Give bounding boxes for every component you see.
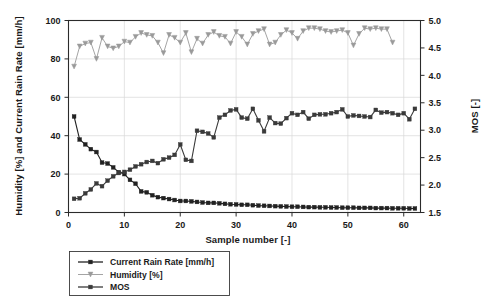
left-tick-label: 80 [50, 54, 60, 64]
data-point-marker [106, 162, 110, 166]
data-point-marker [145, 160, 149, 164]
data-point-marker [402, 111, 406, 115]
data-point-marker [363, 206, 367, 210]
data-point-marker [413, 107, 417, 111]
data-point-marker [396, 206, 400, 210]
data-point-marker [335, 110, 339, 114]
data-point-marker [134, 165, 138, 169]
data-point-marker [251, 107, 255, 111]
bottom-tick-label: 20 [175, 220, 185, 230]
legend-label-2: Humidity [%] [110, 270, 163, 280]
data-point-marker [156, 195, 160, 199]
data-point-marker [229, 202, 233, 206]
data-point-marker [357, 206, 361, 210]
data-point-marker [285, 205, 289, 209]
data-point-marker [279, 204, 283, 208]
data-point-marker [167, 156, 171, 160]
right-tick-label: 3.0 [429, 125, 442, 135]
data-point-marker [89, 260, 93, 264]
data-point-marker [324, 112, 328, 116]
data-point-marker [234, 203, 238, 207]
data-point-marker [324, 205, 328, 209]
bottom-tick-label: 50 [343, 220, 353, 230]
data-point-marker [78, 138, 82, 142]
data-point-marker [391, 111, 395, 115]
data-point-marker [273, 121, 277, 125]
data-point-marker [72, 115, 76, 119]
bottom-tick-label: 10 [119, 220, 129, 230]
data-point-marker [296, 205, 300, 209]
data-point-marker [139, 189, 143, 193]
data-point-marker [312, 205, 316, 209]
data-point-marker [245, 117, 249, 121]
data-point-marker [190, 159, 194, 163]
data-point-marker [335, 206, 339, 210]
data-point-marker [111, 174, 115, 178]
data-point-marker [173, 153, 177, 157]
chart-legend: Current Rain Rate [mm/h]Humidity [%]MOS [70, 252, 230, 296]
right-tick-label: 4.0 [429, 71, 442, 81]
left-tick-label: 0 [55, 208, 60, 218]
data-point-marker [257, 204, 261, 208]
data-point-marker [89, 147, 93, 151]
data-point-marker [212, 201, 216, 205]
data-point-marker [301, 110, 305, 114]
data-point-marker [407, 207, 411, 211]
data-point-marker [150, 159, 154, 163]
right-tick-label: 2.5 [429, 153, 442, 163]
data-point-marker [195, 200, 199, 204]
data-point-marker [212, 135, 216, 139]
data-point-marker [83, 142, 87, 146]
data-point-marker [195, 129, 199, 133]
data-point-marker [134, 182, 138, 186]
data-point-marker [100, 184, 104, 188]
data-point-marker [340, 206, 344, 210]
bottom-axis-title: Sample number [-] [205, 234, 290, 245]
data-point-marker [257, 118, 261, 122]
right-tick-label: 2.0 [429, 180, 442, 190]
data-point-marker [223, 113, 227, 117]
data-point-marker [363, 115, 367, 119]
data-point-marker [329, 206, 333, 210]
bottom-tick-label: 0 [66, 220, 71, 230]
data-point-marker [145, 190, 149, 194]
data-point-marker [296, 113, 300, 117]
data-point-marker [357, 114, 361, 118]
left-axis-title: Humidity [%] and Current Rain Rate [mm/h… [13, 16, 24, 215]
data-point-marker [156, 161, 160, 165]
data-point-marker [117, 171, 121, 175]
data-point-marker [346, 206, 350, 210]
data-point-marker [229, 109, 233, 113]
data-point-marker [262, 204, 266, 208]
data-point-marker [111, 165, 115, 169]
data-point-marker [184, 199, 188, 203]
data-point-marker [374, 206, 378, 210]
legend-label-3: MOS [110, 282, 130, 292]
data-point-marker [106, 179, 110, 183]
right-tick-label: 4.5 [429, 43, 442, 53]
data-point-marker [72, 197, 76, 201]
data-point-marker [89, 285, 93, 289]
data-point-marker [150, 193, 154, 197]
bottom-tick-label: 60 [399, 220, 409, 230]
data-point-marker [201, 130, 205, 134]
data-point-marker [340, 107, 344, 111]
data-point-marker [318, 205, 322, 209]
data-point-marker [178, 143, 182, 147]
data-point-marker [89, 188, 93, 192]
data-point-marker [128, 178, 132, 182]
right-axis-title: MOS [-] [469, 99, 480, 133]
data-point-marker [206, 132, 210, 136]
data-point-marker [122, 170, 126, 174]
data-point-marker [240, 116, 244, 120]
data-point-marker [312, 113, 316, 117]
data-point-marker [352, 114, 356, 118]
data-point-marker [407, 117, 411, 121]
data-point-marker [368, 206, 372, 210]
data-point-marker [391, 206, 395, 210]
data-point-marker [95, 150, 99, 154]
data-point-marker [268, 204, 272, 208]
right-tick-label: 5.0 [429, 16, 442, 26]
data-point-marker [374, 108, 378, 112]
data-point-marker [78, 196, 82, 200]
